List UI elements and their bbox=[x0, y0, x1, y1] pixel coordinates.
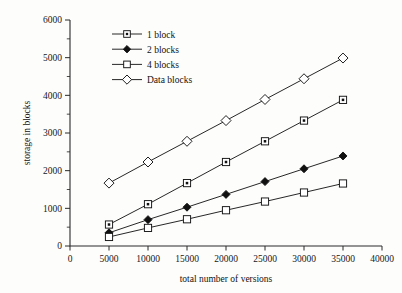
y-tick-label: 2000 bbox=[43, 166, 62, 176]
data-point-marker bbox=[183, 216, 190, 223]
data-point-marker bbox=[124, 31, 131, 38]
series-4-blocks bbox=[105, 180, 346, 241]
legend-entry-1-block[interactable]: 1 block bbox=[112, 30, 175, 40]
data-point-marker bbox=[261, 178, 269, 186]
y-axis-ticks: 0100020003000400050006000 bbox=[43, 15, 70, 251]
x-tick-label: 0 bbox=[68, 254, 73, 264]
data-point-marker bbox=[222, 207, 229, 214]
y-tick-label: 6000 bbox=[43, 15, 62, 25]
data-point-marker bbox=[182, 136, 192, 146]
y-tick-label: 4000 bbox=[43, 91, 62, 101]
chart-figure: 0500010000150002000025000300003500040000… bbox=[0, 0, 402, 293]
data-point-marker bbox=[300, 117, 307, 124]
data-point-marker bbox=[124, 61, 131, 68]
data-point-marker bbox=[143, 157, 153, 167]
data-point-marker bbox=[105, 221, 112, 228]
data-point-marker bbox=[299, 74, 309, 84]
legend-label: 2 blocks bbox=[147, 45, 179, 55]
x-tick-label: 40000 bbox=[370, 254, 394, 264]
legend-label: Data blocks bbox=[147, 75, 192, 85]
data-point-marker bbox=[261, 138, 268, 145]
data-point-marker bbox=[300, 165, 308, 173]
data-point-marker bbox=[221, 116, 231, 126]
data-point-marker bbox=[104, 178, 114, 188]
y-tick-label: 5000 bbox=[43, 53, 62, 63]
x-tick-label: 10000 bbox=[136, 254, 160, 264]
legend-label: 4 blocks bbox=[147, 60, 179, 70]
x-axis-ticks: 0500010000150002000025000300003500040000 bbox=[68, 246, 395, 264]
x-axis-title: total number of versions bbox=[180, 274, 273, 284]
data-point-marker bbox=[144, 216, 152, 224]
data-point-marker bbox=[339, 96, 346, 103]
y-tick-label: 1000 bbox=[43, 204, 62, 214]
data-point-marker bbox=[122, 75, 131, 84]
data-series-group bbox=[104, 53, 348, 241]
y-tick-label: 0 bbox=[57, 241, 62, 251]
data-point-marker bbox=[144, 224, 151, 231]
data-point-marker bbox=[123, 46, 130, 53]
x-tick-label: 20000 bbox=[214, 254, 238, 264]
data-point-marker bbox=[183, 179, 190, 186]
chart-legend: 1 block2 blocks4 blocksData blocks bbox=[112, 30, 192, 86]
legend-entry-2-blocks[interactable]: 2 blocks bbox=[112, 45, 179, 55]
data-point-marker bbox=[260, 94, 270, 104]
data-point-marker bbox=[222, 190, 230, 198]
data-point-marker bbox=[338, 53, 348, 63]
legend-entry-4-blocks[interactable]: 4 blocks bbox=[112, 60, 179, 70]
data-point-marker bbox=[105, 233, 112, 240]
x-tick-label: 35000 bbox=[331, 254, 355, 264]
legend-entry-data-blocks[interactable]: Data blocks bbox=[112, 75, 192, 85]
x-tick-label: 15000 bbox=[175, 254, 199, 264]
x-tick-label: 25000 bbox=[253, 254, 277, 264]
legend-label: 1 block bbox=[147, 30, 175, 40]
data-point-marker bbox=[339, 152, 347, 160]
y-tick-label: 3000 bbox=[43, 128, 62, 138]
data-point-marker bbox=[222, 158, 229, 165]
data-point-marker bbox=[261, 198, 268, 205]
data-point-marker bbox=[339, 180, 346, 187]
y-axis-title: storage in blocks bbox=[22, 101, 32, 166]
x-tick-label: 30000 bbox=[292, 254, 316, 264]
series-data-blocks bbox=[104, 53, 348, 188]
data-point-marker bbox=[183, 203, 191, 211]
x-tick-label: 5000 bbox=[100, 254, 119, 264]
data-point-marker bbox=[300, 189, 307, 196]
data-point-marker bbox=[144, 201, 151, 208]
line-chart: 0500010000150002000025000300003500040000… bbox=[0, 0, 402, 293]
